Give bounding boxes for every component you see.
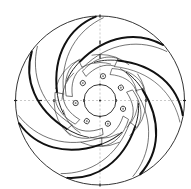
center-mark <box>99 100 101 102</box>
impeller-diagram <box>0 0 191 189</box>
